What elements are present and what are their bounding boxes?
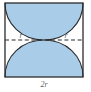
base-label: 2r — [40, 80, 48, 89]
geometry-figure: r r 2r — [0, 0, 91, 92]
figure-canvas: r r 2r — [0, 0, 91, 92]
